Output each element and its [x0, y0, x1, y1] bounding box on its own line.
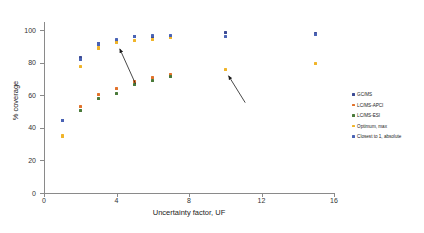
x-tick-label: 4: [107, 197, 127, 204]
data-point: [314, 62, 317, 65]
legend-item: LC/MS-APCI: [352, 101, 424, 110]
data-point: [61, 119, 64, 122]
data-point: [314, 33, 317, 36]
legend-swatch-icon: [352, 125, 355, 128]
x-tick-label: 0: [34, 197, 54, 204]
data-point: [133, 35, 136, 38]
data-points-layer: [44, 22, 334, 193]
legend-item: Closest to 1, absolute: [352, 132, 424, 141]
legend-swatch-icon: [352, 93, 355, 96]
data-point: [169, 75, 172, 78]
y-axis-title: % coverage: [11, 66, 20, 136]
data-point: [224, 35, 227, 38]
legend-item-label: LC/MS-ESI: [357, 113, 380, 118]
scatter-chart-figure: 020406080100 0481216 Uncertainty factor,…: [0, 0, 424, 233]
legend-item-label: Closest to 1, absolute: [357, 134, 401, 139]
legend-swatch-icon: [352, 104, 355, 107]
data-point: [115, 41, 118, 44]
chart-legend: GC/MSLC/MS-APCILC/MS-ESIOptimum, maxClos…: [352, 90, 424, 143]
y-tick-label: 0: [14, 190, 36, 197]
legend-swatch-icon: [352, 114, 355, 117]
data-point: [115, 92, 118, 95]
data-point: [97, 97, 100, 100]
x-tick-label: 16: [324, 197, 344, 204]
legend-item-label: Optimum, max: [357, 124, 387, 129]
data-point: [151, 38, 154, 41]
y-tick-label: 20: [14, 157, 36, 164]
legend-item: GC/MS: [352, 90, 424, 99]
data-point: [79, 58, 82, 61]
x-tick-label: 8: [179, 197, 199, 204]
data-point: [224, 31, 227, 34]
data-point: [151, 79, 154, 82]
data-point: [79, 105, 82, 108]
legend-item-label: LC/MS-APCI: [357, 103, 383, 108]
data-point: [115, 87, 118, 90]
legend-item: Optimum, max: [352, 122, 424, 131]
y-tick-label: 100: [14, 27, 36, 34]
data-point: [79, 109, 82, 112]
data-point: [61, 134, 64, 137]
legend-swatch-icon: [352, 135, 355, 138]
data-point: [97, 42, 100, 45]
data-point: [97, 46, 100, 49]
legend-item-label: GC/MS: [357, 92, 372, 97]
data-point: [97, 93, 100, 96]
data-point: [133, 83, 136, 86]
x-tick-label: 12: [252, 197, 272, 204]
data-point: [115, 38, 118, 41]
legend-item: LC/MS-ESI: [352, 111, 424, 120]
data-point: [79, 65, 82, 68]
data-point: [224, 68, 227, 71]
data-point: [133, 39, 136, 42]
x-axis-title: Uncertainty factor, UF: [44, 208, 334, 217]
